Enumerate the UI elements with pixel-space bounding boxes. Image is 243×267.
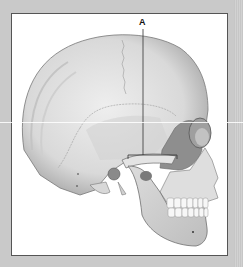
scan-line — [0, 122, 243, 123]
external-auditory-meatus — [108, 168, 120, 180]
skull-illustration — [0, 0, 243, 267]
styloid-process — [118, 182, 126, 195]
teeth — [167, 198, 208, 217]
mental-foramen — [192, 231, 194, 233]
label-a: A — [139, 17, 146, 27]
